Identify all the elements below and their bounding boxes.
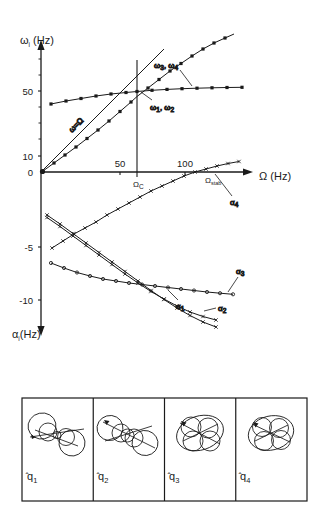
leader-alpha2 (204, 308, 216, 311)
reference-line-omega-eq-bigomega (41, 49, 164, 172)
curve-label-omega34: ω3, ω4 (154, 61, 179, 71)
leader-alpha3 (228, 277, 238, 292)
bigomega-unit: (Hz) (267, 170, 291, 182)
curve-label-alpha3: α3 (236, 267, 245, 277)
omega-stab-label: Ωstab (205, 176, 221, 186)
alpha-unit: (Hz) (20, 328, 41, 340)
x-axis-title-bigomega: Ω (Hz) (259, 170, 291, 182)
curve-alpha4 (52, 162, 239, 249)
ytick-label-10: 10 (22, 151, 33, 162)
leader-omega12 (141, 92, 152, 100)
y-axis-title-alpha: αi(Hz) (12, 328, 41, 342)
omega-unit: (Hz) (30, 34, 54, 46)
omega-c-label: ΩC (133, 180, 144, 190)
figure-svg: 50 10 0 50 100 -5 -10 ωi (Hz) Ω (Hz) αi(… (0, 0, 329, 522)
ytick-label-minus5: -5 (25, 242, 33, 253)
curve-alpha4-markers (50, 160, 240, 250)
origin-dot (40, 169, 45, 174)
xtick-label-50: 50 (115, 158, 126, 169)
mode-label-3: ̂q3 (167, 470, 179, 485)
scientific-figure: 50 10 0 50 100 -5 -10 ωi (Hz) Ω (Hz) αi(… (0, 0, 329, 522)
leader-omega34 (180, 70, 192, 86)
axis-marker-labels: ΩC Ωstab (133, 176, 221, 190)
y-axis-title-omega: ωi (Hz) (20, 34, 54, 48)
mode-shape-1 (26, 410, 88, 458)
mode-shapes-panel: ̂q1 ̂q2 (22, 398, 307, 501)
ytick-label-0: 0 (28, 167, 33, 178)
curve-label-alpha2: α2 (218, 304, 227, 314)
mode-shape-3 (172, 409, 228, 456)
mode-label-2: ̂q2 (96, 470, 108, 485)
curve-alpha3-markers (49, 261, 234, 296)
tick-labels: 50 10 0 50 100 -5 -10 (19, 86, 193, 306)
mode-label-4: ̂q4 (238, 470, 250, 485)
ytick-label-minus10: -10 (19, 295, 33, 306)
bigomega-symbol: Ω (259, 170, 267, 182)
mode-shape-4 (245, 411, 298, 455)
leader-alpha1 (168, 290, 178, 300)
upper-curves: ω=Ω ω3, ω4 (40, 34, 244, 174)
ytick-label-50: 50 (22, 86, 33, 97)
curve-label-alpha4: α4 (230, 198, 239, 208)
curve-label-omega12: ω1, ω2 (150, 103, 175, 113)
mode-shape-2 (94, 413, 161, 459)
x-axis-arrow (243, 168, 253, 175)
mode-label-1: ̂q1 (25, 470, 37, 485)
xtick-label-100: 100 (177, 158, 193, 169)
axis-titles: ωi (Hz) Ω (Hz) αi(Hz) (12, 34, 291, 342)
curve-omega12 (43, 34, 234, 171)
curve-alpha3 (51, 263, 233, 294)
omega-eq-bigomega-label: ω=Ω (67, 116, 85, 134)
